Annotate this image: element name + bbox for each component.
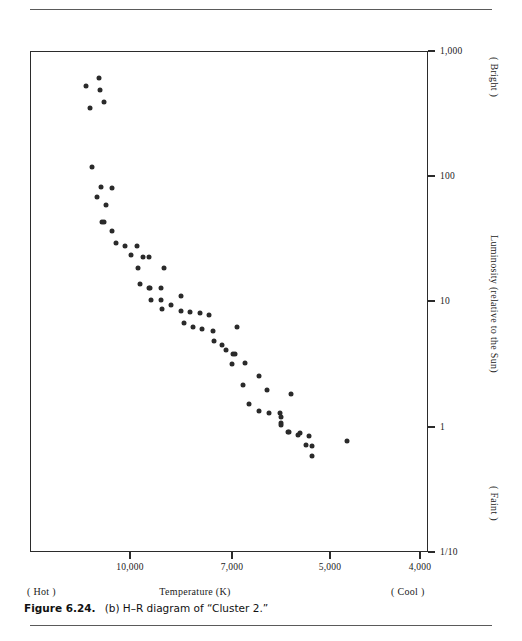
scatter-point <box>99 185 104 190</box>
x-axis-tick-mark <box>329 552 330 559</box>
scatter-point <box>223 347 228 352</box>
scatter-point <box>264 388 269 393</box>
scatter-point <box>97 87 102 92</box>
scatter-point <box>178 294 183 299</box>
page-rule-top <box>30 9 492 10</box>
scatter-point <box>182 321 187 326</box>
scatter-point <box>310 453 315 458</box>
y-axis-top-note: ( Bright ) <box>489 57 500 97</box>
scatter-point <box>242 360 247 365</box>
scatter-point <box>279 423 284 428</box>
scatter-point <box>95 194 100 199</box>
scatter-point <box>178 308 183 313</box>
scatter-point <box>211 329 216 334</box>
scatter-point <box>257 373 262 378</box>
scatter-point <box>247 401 252 406</box>
scatter-point <box>109 186 114 191</box>
scatter-point <box>207 312 212 317</box>
x-axis-tick-label: 7,000 <box>221 562 243 572</box>
scatter-point <box>257 409 262 414</box>
y-axis-tick-mark <box>428 50 435 51</box>
scatter-point <box>134 244 139 249</box>
scatter-point <box>310 443 315 448</box>
y-axis-bottom-note: ( Faint ) <box>489 486 500 521</box>
scatter-point <box>146 255 151 260</box>
x-axis-tick-label: 10,000 <box>116 562 143 572</box>
scatter-point <box>289 392 294 397</box>
scatter-point <box>159 306 164 311</box>
scatter-point <box>101 99 106 104</box>
scatter-point <box>345 438 350 443</box>
y-axis-tick-mark <box>428 175 435 176</box>
x-axis-tick-mark <box>129 552 130 559</box>
scatter-point <box>286 430 291 435</box>
scatter-point <box>212 339 217 344</box>
x-axis-tick-mark <box>419 552 420 559</box>
y-axis-tick-mark <box>428 426 435 427</box>
scatter-point <box>113 240 118 245</box>
scatter-point <box>159 286 164 291</box>
scatter-point <box>90 165 95 170</box>
scatter-point <box>123 244 128 249</box>
scatter-point <box>279 414 284 419</box>
x-axis-title: Temperature (K) <box>159 586 230 597</box>
scatter-point <box>84 83 89 88</box>
scatter-point <box>241 382 246 387</box>
y-axis-tick-label: 100 <box>440 171 455 181</box>
scatter-point <box>168 302 173 307</box>
scatter-point <box>137 282 142 287</box>
scatter-point <box>295 432 300 437</box>
y-axis-tick-mark <box>428 551 435 552</box>
scatter-point <box>232 351 237 356</box>
x-axis-right-note: ( Cool ) <box>391 586 425 597</box>
scatter-point <box>129 252 134 257</box>
plot-frame <box>30 51 428 552</box>
figure-caption: Figure 6.24.(b) H–R diagram of “Cluster … <box>24 602 268 614</box>
x-axis-tick-label: 4,000 <box>409 562 431 572</box>
y-axis-title: Luminosity (relative to the Sun) <box>489 235 500 373</box>
scatter-point <box>303 442 308 447</box>
figure-caption-text: (b) H–R diagram of “Cluster 2.” <box>105 602 269 614</box>
scatter-point <box>219 342 224 347</box>
scatter-point <box>136 265 141 270</box>
x-axis-left-note: ( Hot ) <box>27 586 56 597</box>
scatter-point <box>307 433 312 438</box>
x-axis-tick-label: 5,000 <box>319 562 341 572</box>
x-axis-tick-mark <box>231 552 232 559</box>
scatter-point <box>188 309 193 314</box>
scatter-point <box>235 324 240 329</box>
scatter-point <box>148 286 153 291</box>
scatter-point <box>162 265 167 270</box>
scatter-point <box>200 327 205 332</box>
figure-caption-label: Figure 6.24. <box>24 602 96 614</box>
scatter-point <box>191 324 196 329</box>
scatter-point <box>267 411 272 416</box>
scatter-point <box>101 219 106 224</box>
scatter-point <box>109 229 114 234</box>
scatter-point <box>149 297 154 302</box>
y-axis-tick-label: 1 <box>440 422 445 432</box>
y-axis-tick-label: 10 <box>440 296 450 306</box>
y-axis-tick-mark <box>428 300 435 301</box>
scatter-point <box>198 311 203 316</box>
scatter-point <box>230 362 235 367</box>
y-axis-tick-label: 1/10 <box>440 547 458 557</box>
scatter-point <box>140 255 145 260</box>
scatter-point <box>87 105 92 110</box>
page-rule-bottom <box>30 625 492 626</box>
scatter-point <box>96 76 101 81</box>
scatter-points-layer <box>31 52 427 551</box>
y-axis-tick-label: 1,000 <box>440 46 462 56</box>
scatter-point <box>159 298 164 303</box>
scatter-point <box>104 203 109 208</box>
